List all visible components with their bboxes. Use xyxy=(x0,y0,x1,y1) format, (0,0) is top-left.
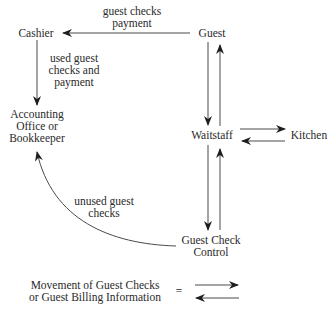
legend-text: Movement of Guest Checks or Guest Billin… xyxy=(24,279,166,303)
edge-label-line: checks and xyxy=(44,64,104,76)
edge-label-line: unused guest xyxy=(68,195,140,207)
node-label-line: Control xyxy=(178,246,244,258)
node-kitchen: Kitchen xyxy=(288,129,330,141)
node-label-line: Guest Check xyxy=(178,234,244,246)
edge-label-gcc-to-accounting: unused guest checks xyxy=(68,195,140,219)
legend-equals: = xyxy=(172,285,186,297)
legend-line: Movement of Guest Checks xyxy=(24,279,166,291)
flow-arrows xyxy=(0,0,336,316)
node-waitstaff: Waitstaff xyxy=(188,129,236,141)
node-guest: Guest xyxy=(194,27,230,39)
node-accounting: Accounting Office or Bookkeeper xyxy=(2,108,72,144)
node-cashier: Cashier xyxy=(14,27,58,39)
node-label-line: Office or xyxy=(2,120,72,132)
edge-label-line: guest checks xyxy=(92,5,172,17)
legend-line: or Guest Billing Information xyxy=(24,291,166,303)
edge-label-guest-to-cashier: guest checks payment xyxy=(92,5,172,29)
edge-label-line: used guest xyxy=(44,52,104,64)
edge-label-line: payment xyxy=(44,76,104,88)
node-guest-check-control: Guest Check Control xyxy=(178,234,244,258)
node-label-line: Accounting xyxy=(2,108,72,120)
node-label-line: Bookkeeper xyxy=(2,132,72,144)
edge-label-line: checks xyxy=(68,207,140,219)
edge-label-cashier-to-accounting: used guest checks and payment xyxy=(44,52,104,88)
edge-label-line: payment xyxy=(92,17,172,29)
